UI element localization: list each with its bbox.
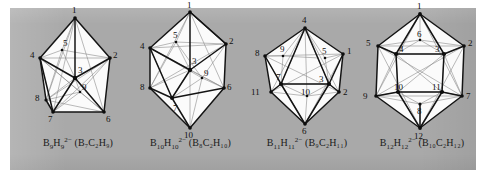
polyhedron-b12: 1 2 3 4 5 6 7 8 9 10 11 12 [358,0,486,140]
vertex-label-b10-9: 9 [204,68,209,78]
caption-b11-hydride-el: H [281,137,288,148]
vertex-label-b10-7: 7 [173,103,178,113]
caption-b12: B12H122− (B₁₀C₂H₁₂) [358,136,486,151]
caption-b9-hydride-el: H [53,137,60,148]
caption-b11-carborane: B₉C₂H₁₁ [309,137,344,148]
vertex-label-b12-9: 9 [363,91,368,101]
polyhedron-b10: 1 2 3 4 5 6 7 8 9 10 [128,0,253,135]
vertex-label-b12-7: 7 [466,91,471,101]
vertex-label-b11-3: 3 [319,74,324,84]
vertex-label-b10-6: 6 [227,82,232,92]
caption-b10-hydride-sub: 10 [171,143,178,151]
vertex-label-b12-2: 2 [468,38,473,48]
panel-b9: 1 2 3 4 5 6 7 8 9 B9H92− (B₇C₂H₉) [18,0,138,162]
caption-b11-anion-el: B [267,137,274,148]
vertex-label-b11-1: 1 [347,46,352,56]
vertex-label-b10-8: 8 [140,82,145,92]
caption-b10-anion-sub: 10 [157,143,164,151]
panel-b11: 1 2 3 4 5 6 7 8 9 10 11 B11H112− (B₉C₂H₁… [243,0,371,162]
vertex-label-b12-10: 10 [394,82,404,92]
caption-b10-anion-el: B [150,137,157,148]
caption-b10-charge: 2− [179,136,187,144]
vertex-label-b9-1: 1 [72,5,77,15]
caption-b9-hydride-sub: 9 [61,143,65,151]
vertex-label-b11-10: 10 [301,87,311,97]
vertex-label-b11-11: 11 [251,87,260,97]
caption-b10: B10H102− (B₈C₂H₁₀) [128,136,253,151]
vertex-label-b10-3: 3 [192,56,197,66]
vertex-label-b11-2: 2 [343,87,348,97]
caption-b9-paren-close: ) [110,137,113,148]
vertex-label-b10-2: 2 [229,36,234,46]
vertex-label-b12-3: 3 [435,44,440,54]
caption-b11-charge: 2− [295,136,303,144]
vertex-label-b9-2: 2 [113,50,118,60]
caption-b9-anion-el: B [43,137,50,148]
panel-b10: 1 2 3 4 5 6 7 8 9 10 B10H102− (B₈C₂H₁₀) [128,0,253,162]
caption-b12-hydride-el: H [394,137,401,148]
vertex-label-b11-4: 4 [302,15,307,25]
vertex-label-b9-5: 5 [63,38,68,48]
caption-b12-paren-close: ) [461,137,464,148]
vertex-label-b12-6: 6 [417,29,422,39]
caption-b12-carborane: B₁₀C₂H₁₂ [422,137,461,148]
polyhedron-b9: 1 2 3 4 5 6 7 8 9 [18,0,138,130]
caption-b9-charge: 2− [64,136,72,144]
vertex-label-b9-4: 4 [30,50,35,60]
caption-b12-anion-sub: 12 [387,143,394,151]
vertex-label-b12-1: 1 [417,1,422,11]
panel-b12: 1 2 3 4 5 6 7 8 9 10 11 12 B12H122− (B₁₀… [358,0,486,162]
vertex-label-b11-7: 7 [276,72,281,82]
caption-b10-carborane: B₈C₂H₁₀ [192,137,227,148]
caption-b11: B11H112− (B₉C₂H₁₁) [243,136,371,151]
vertex-label-b9-7: 7 [48,114,53,124]
caption-b11-paren-close: ) [344,137,347,148]
caption-b9: B9H92− (B₇C₂H₉) [18,136,138,151]
caption-b10-paren-close: ) [228,137,231,148]
polyhedron-b11: 1 2 3 4 5 6 7 8 9 10 11 [243,0,371,135]
vertex-label-b10-4: 4 [140,41,145,51]
vertex-label-b9-8: 8 [35,93,40,103]
vertex-label-b9-9: 9 [82,82,87,92]
caption-b12-hydride-sub: 12 [401,143,408,151]
vertex-label-b12-5: 5 [366,38,371,48]
vertex-label-b12-4: 4 [399,44,404,54]
vertex-label-b9-6: 6 [106,114,111,124]
vertex-label-b9-3: 3 [78,65,83,75]
caption-b9-carborane: B₇C₂H₉ [78,137,110,148]
vertex-label-b11-9: 9 [280,44,285,54]
figure-root: 1 2 3 4 5 6 7 8 9 B9H92− (B₇C₂H₉) [0,0,489,175]
vertex-label-b10-1: 1 [187,0,192,10]
vertex-label-b12-11: 11 [432,82,441,92]
caption-b12-charge: 2− [408,136,416,144]
caption-b12-anion-el: B [380,137,387,148]
vertex-label-b11-5: 5 [322,46,327,56]
vertex-label-b10-5: 5 [173,30,178,40]
vertex-label-b11-8: 8 [255,48,260,58]
caption-b11-hydride-sub: 11 [288,143,295,151]
vertex-label-b11-6: 6 [302,126,307,136]
caption-b11-anion-sub: 11 [274,143,281,151]
vertex-label-b12-8: 8 [417,106,422,116]
